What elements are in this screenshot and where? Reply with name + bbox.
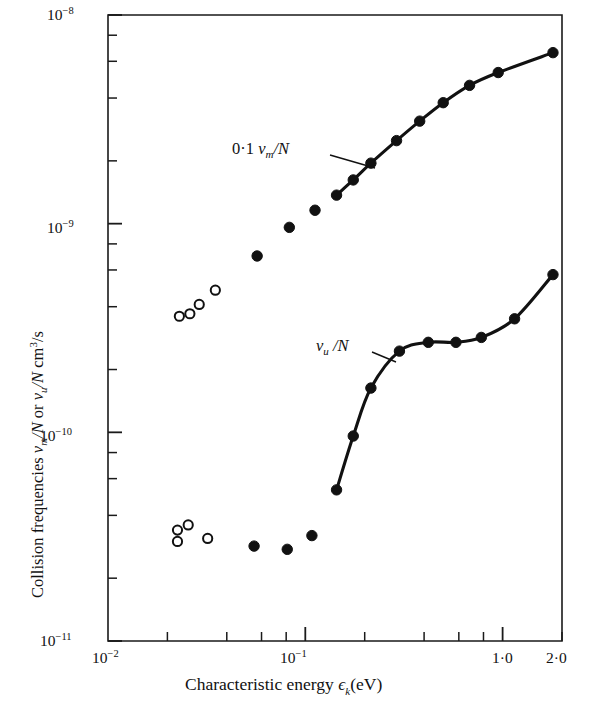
data-point-open [195, 300, 204, 309]
data-point-filled [438, 97, 448, 107]
data-points [173, 47, 558, 554]
data-point-filled [548, 47, 558, 57]
x-axis-ticks [167, 627, 562, 641]
data-curves [337, 53, 553, 490]
data-point-open [211, 286, 220, 295]
data-point-filled [423, 337, 433, 347]
data-point-filled [252, 251, 262, 261]
data-point-filled [493, 67, 503, 77]
x-tick-label-1p0: 1·0 [492, 650, 513, 666]
y-tick-label-1e-11: 10−11 [40, 633, 72, 649]
data-point-open [175, 312, 184, 321]
data-point-filled [307, 530, 317, 540]
data-point-filled [331, 190, 341, 200]
data-point-filled [249, 541, 259, 551]
data-point-filled [284, 222, 294, 232]
data-point-filled [394, 346, 404, 356]
data-point-open [184, 520, 193, 529]
data-point-open [203, 534, 212, 543]
data-point-filled [414, 116, 424, 126]
data-point-filled [391, 135, 401, 145]
data-point-filled [348, 175, 358, 185]
data-point-filled [548, 269, 558, 279]
data-point-filled [451, 337, 461, 347]
data-point-filled [282, 544, 292, 554]
data-point-filled [509, 314, 519, 324]
data-point-filled [331, 485, 341, 495]
x-tick-label-1e-2: 10−2 [92, 650, 119, 666]
annotation-nu-m: 0·1 νm/N [232, 141, 289, 158]
annotation-nu-u: νu /N [316, 338, 349, 355]
data-point-open [173, 525, 182, 534]
annotation-leader-lines [330, 155, 396, 362]
data-point-filled [366, 383, 376, 393]
series-line [337, 275, 553, 490]
data-point-open [185, 309, 194, 318]
plot-frame [108, 15, 562, 641]
y-tick-label-1e-9: 10−9 [47, 220, 74, 236]
data-point-open [173, 537, 182, 546]
figure-container: 10−8 10−9 10−10 10−11 10−2 10−1 1·0 2·0 … [0, 0, 589, 704]
data-point-filled [310, 205, 320, 215]
data-point-filled [348, 431, 358, 441]
x-tick-label-2p0: 2·0 [546, 650, 567, 666]
x-axis-title: Characteristic energy ϵk(eV) [185, 676, 382, 694]
y-tick-label-1e-8: 10−8 [47, 7, 74, 23]
y-axis-title: Collision frequencies νm/N or νu/N cm3/s [30, 331, 47, 598]
y-axis-ticks [108, 15, 122, 641]
series-line [337, 53, 553, 195]
data-point-filled [476, 332, 486, 342]
x-tick-label-1e-1: 10−1 [280, 650, 307, 666]
chart-canvas [0, 0, 589, 704]
data-point-filled [464, 80, 474, 90]
